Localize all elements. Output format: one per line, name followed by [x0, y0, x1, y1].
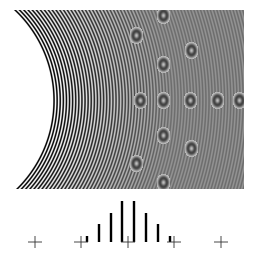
bar--4 [86, 236, 88, 242]
cross-marker-icon [28, 236, 42, 248]
cross-markers [28, 236, 228, 248]
cross-marker-icon [214, 236, 228, 248]
bar--3 [98, 224, 100, 242]
diffraction-bar-plot [0, 0, 254, 259]
bar-1 [133, 201, 135, 242]
bar-4 [169, 236, 171, 242]
bar-series [86, 201, 171, 242]
bar--1 [121, 201, 123, 242]
bar-2 [145, 213, 147, 242]
bar--2 [110, 213, 112, 242]
bar-3 [157, 224, 159, 242]
